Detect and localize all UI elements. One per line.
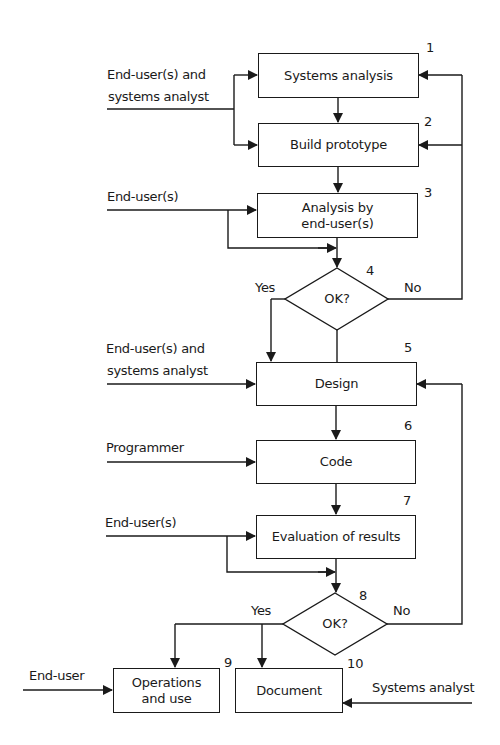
flowchart-connectors (0, 0, 500, 745)
step-number-5: 5 (404, 341, 412, 355)
step-number-7: 7 (403, 494, 411, 508)
step-9-label-line2: and use (141, 691, 191, 707)
step-number-10: 10 (347, 657, 364, 671)
input-label-step6: Programmer (106, 440, 184, 455)
step-number-2: 2 (424, 115, 432, 129)
input-label-step7: End-user(s) (105, 515, 176, 530)
step-9-label-line1: Operations (132, 675, 201, 691)
step-10-document: Document (235, 668, 343, 713)
step-number-4: 4 (366, 264, 374, 278)
step-7-evaluation-of-results: Evaluation of results (256, 515, 416, 559)
step-6-label: Code (320, 454, 352, 470)
step-7-label: Evaluation of results (272, 529, 401, 545)
step-6-code: Code (256, 440, 416, 484)
input-label-step9: End-user (29, 668, 84, 683)
step-5-label: Design (315, 376, 359, 392)
step-3-label-line1: Analysis by (302, 200, 373, 216)
step-3-analysis-by-end-users: Analysis by end-user(s) (257, 193, 418, 238)
input-label-step5-line2: systems analyst (107, 363, 208, 378)
step-number-3: 3 (424, 186, 432, 200)
input-label-step1-line2: systems analyst (108, 89, 209, 104)
decision-4-no-label: No (404, 280, 421, 295)
decision-8-label: OK? (310, 616, 360, 631)
step-number-8: 8 (359, 589, 367, 603)
step-2-label: Build prototype (290, 137, 387, 153)
decision-8-yes-label: Yes (251, 603, 271, 618)
step-10-label: Document (256, 683, 322, 699)
step-1-systems-analysis: Systems analysis (258, 53, 419, 98)
step-2-build-prototype: Build prototype (258, 123, 419, 167)
decision-4-label: OK? (312, 291, 362, 306)
step-1-label: Systems analysis (284, 68, 393, 84)
step-5-design: Design (256, 362, 417, 406)
step-number-6: 6 (404, 419, 412, 433)
decision-8-no-label: No (393, 603, 410, 618)
step-number-9: 9 (224, 656, 232, 670)
decision-4-yes-label: Yes (255, 280, 275, 295)
step-9-operations-and-use: Operations and use (113, 668, 220, 713)
input-label-step10: Systems analyst (372, 680, 474, 695)
input-label-step3: End-user(s) (107, 189, 178, 204)
step-number-1: 1 (426, 41, 434, 55)
step-3-label-line2: end-user(s) (301, 216, 373, 232)
input-label-step5-line1: End-user(s) and (106, 341, 205, 356)
input-label-step1-line1: End-user(s) and (107, 67, 206, 82)
